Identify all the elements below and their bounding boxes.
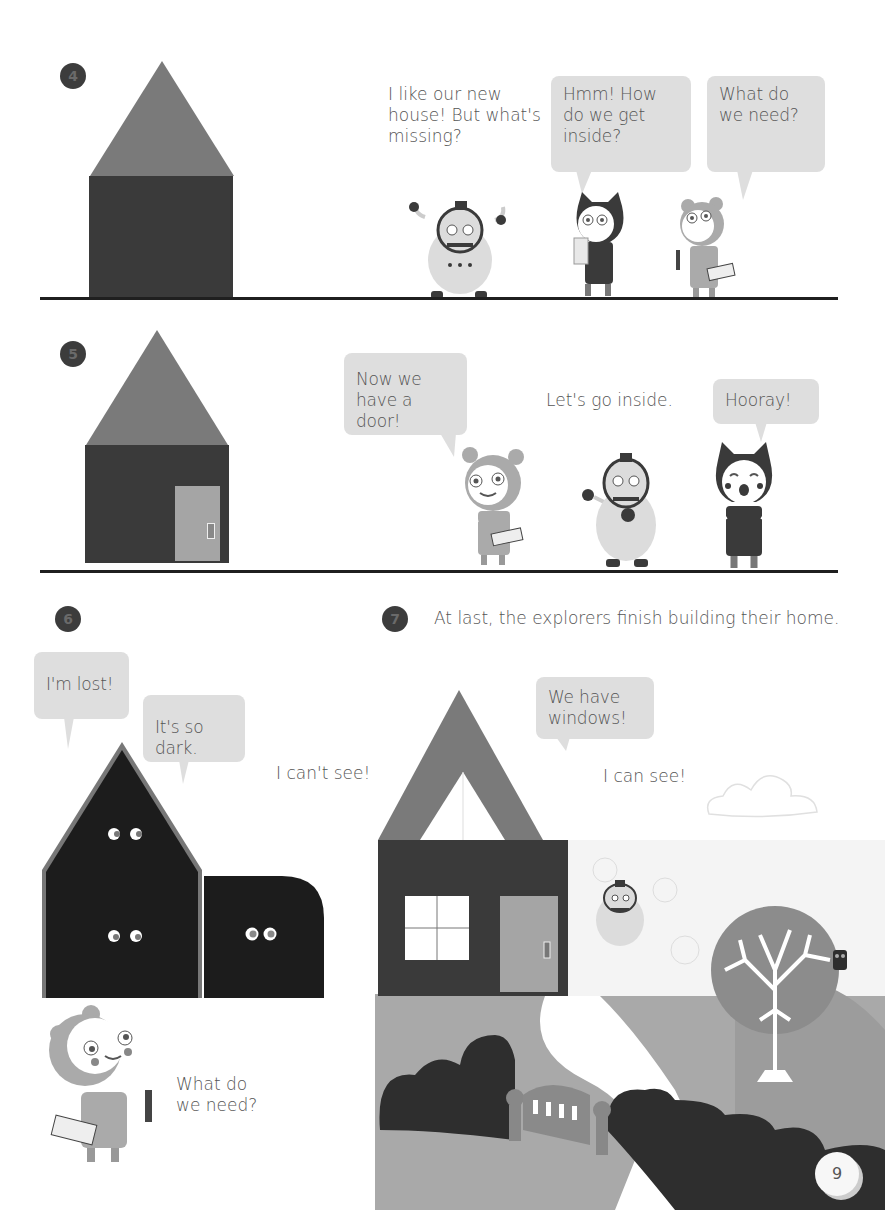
- panel-number-badge: 5: [60, 341, 86, 367]
- roof: [86, 330, 228, 445]
- bear-character-icon: [676, 196, 746, 304]
- owl-icon: [833, 950, 847, 970]
- dark-house-icon: [42, 742, 332, 1000]
- door: [175, 486, 220, 561]
- speech-bubble-cat: Hooray!: [713, 379, 819, 424]
- cat-character-icon: [570, 192, 630, 302]
- ground-line: [40, 297, 838, 300]
- page-number: 9: [815, 1152, 859, 1196]
- cloud-icon: [703, 768, 823, 820]
- bear-character-icon: [45, 1000, 155, 1170]
- speech-bubble-cat: Hmm! How do we get inside?: [551, 76, 691, 172]
- speech-bubble: I'm lost!: [34, 652, 129, 719]
- roof: [90, 61, 234, 176]
- speech-bubble-bear: What do we need?: [707, 76, 825, 172]
- panel-number-badge: 7: [382, 606, 408, 632]
- ground-line: [40, 570, 838, 573]
- speech-bubble: We have windows!: [536, 677, 654, 739]
- caption: At last, the explorers finish building t…: [434, 608, 839, 629]
- speech-text: I can see!: [603, 766, 686, 787]
- speech-bubble-bear: Now we have a door!: [344, 353, 467, 435]
- robot-character-icon: [405, 195, 515, 303]
- house-wall: [89, 176, 233, 298]
- bubble-tail: [755, 422, 767, 442]
- speech-text-robot: I like our new house! But what's missing…: [388, 84, 541, 147]
- robot-character-icon: [578, 447, 668, 571]
- speech-text-bear: What do we need?: [176, 1074, 257, 1116]
- bear-character-icon: [448, 445, 533, 569]
- panel-number-badge: 6: [55, 606, 81, 632]
- cat-character-icon: [704, 440, 784, 572]
- speech-text-robot: Let's go inside.: [546, 390, 673, 411]
- panel-number-badge: 4: [60, 63, 86, 89]
- bubble-tail: [576, 170, 592, 194]
- bubble-tail: [556, 737, 570, 751]
